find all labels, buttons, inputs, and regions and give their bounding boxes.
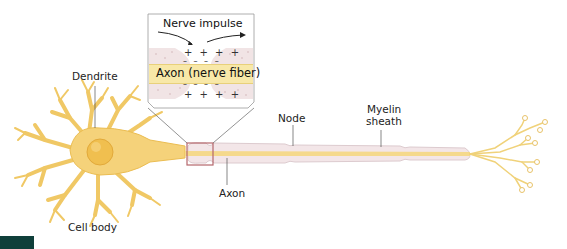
neuron-illustration: [0, 0, 567, 249]
inset-axon-label: Axon (nerve fiber): [156, 66, 260, 80]
inset-minus-bottom: – – – –: [183, 80, 221, 89]
inset-plus-bottom: + + + +: [184, 89, 241, 100]
label-myelin-line1: Myelin: [367, 103, 401, 115]
inset-title: Nerve impulse: [163, 17, 243, 30]
neuron-diagram: Nerve impulse + + + + – – – – Axon (nerv…: [0, 0, 567, 249]
nucleus: [87, 139, 113, 165]
label-node: Node: [278, 112, 305, 124]
inset-minus-top: – – – –: [183, 57, 221, 66]
axon-terminals: [470, 118, 545, 190]
label-axon: Axon: [219, 187, 245, 199]
corner-block: [0, 236, 34, 249]
label-dendrite: Dendrite: [72, 70, 118, 82]
label-myelin-line2: sheath: [366, 115, 402, 127]
label-cell-body: Cell body: [68, 221, 117, 233]
